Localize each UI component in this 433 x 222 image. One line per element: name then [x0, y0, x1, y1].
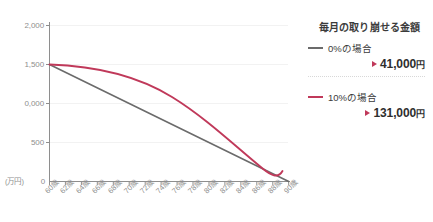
legend: 毎月の取り崩せる金額 0%の場合 41,000円 10%の場合 131,000円	[300, 0, 433, 222]
legend-value-currency-0-percent: 円	[416, 60, 425, 70]
legend-value-10-percent: 131,000円	[373, 106, 425, 120]
legend-label-0-percent: 0%の場合	[328, 41, 372, 55]
legend-label-10-percent: 10%の場合	[328, 90, 377, 104]
y-tick-label-2000: 2,000	[4, 21, 44, 31]
plot-area	[0, 0, 296, 222]
legend-divider	[308, 76, 425, 77]
legend-line-swatch-crimson	[308, 96, 323, 98]
y-tick-label-0: 0	[22, 177, 45, 187]
triangle-right-icon	[372, 61, 377, 67]
y-tick-label-500: 500	[4, 138, 44, 148]
legend-value-0-percent: 41,000円	[380, 57, 425, 71]
gridlines	[49, 26, 288, 143]
legend-label-row-10-percent: 10%の場合	[308, 90, 377, 104]
y-tick-label-1500: 1,500	[4, 60, 44, 70]
x-ticks	[50, 182, 289, 185]
legend-value-row-10-percent: 131,000円	[365, 106, 425, 120]
legend-value-row-0-percent: 41,000円	[372, 57, 425, 71]
series-line-0-percent	[50, 65, 289, 182]
legend-title: 毎月の取り崩せる金額	[306, 19, 433, 34]
chart-screenshot: 2,000 1,500 0,000 500 (万円) 0 60歳 62歳 64歳…	[0, 0, 433, 222]
legend-value-number-10-percent: 131,000	[373, 106, 416, 120]
legend-line-swatch-gray	[308, 47, 323, 49]
y-ticks	[46, 26, 49, 143]
legend-value-currency-10-percent: 円	[416, 109, 425, 119]
legend-label-row-0-percent: 0%の場合	[308, 41, 372, 55]
line-chart: 2,000 1,500 0,000 500 (万円) 0 60歳 62歳 64歳…	[0, 0, 296, 222]
legend-value-number-0-percent: 41,000	[380, 57, 416, 71]
y-tick-label-1000: 0,000	[4, 99, 44, 109]
triangle-right-icon	[365, 110, 370, 116]
